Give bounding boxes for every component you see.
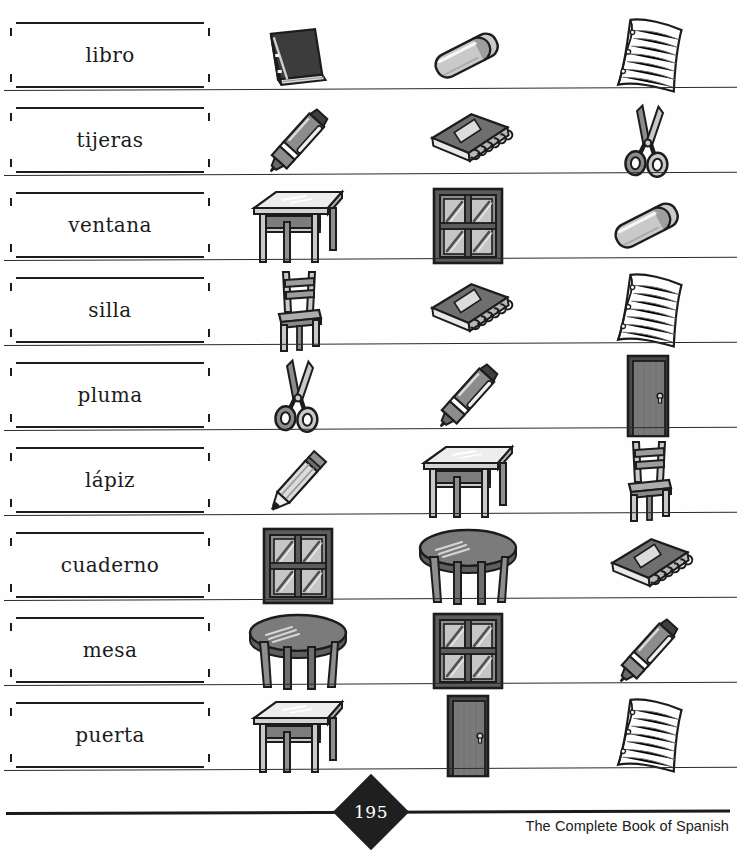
door-icon[interactable]: [398, 696, 538, 776]
worksheet-row: cuaderno: [0, 522, 741, 607]
worksheet-row: pluma: [0, 352, 741, 437]
scissors-icon[interactable]: [578, 101, 718, 181]
word-plaque: [10, 22, 210, 88]
word-plaque: [10, 362, 210, 428]
worksheet-page: libro: [0, 0, 741, 851]
notebook-icon[interactable]: [398, 271, 538, 351]
paper-icon[interactable]: [578, 16, 718, 96]
desk-icon[interactable]: [398, 441, 538, 521]
word-plaque: [10, 277, 210, 343]
word-plaque: [10, 702, 210, 768]
word-plaque: [10, 617, 210, 683]
chair-icon[interactable]: [578, 441, 718, 521]
word-plaque: [10, 532, 210, 598]
book-title: The Complete Book of Spanish: [526, 818, 730, 834]
eraser-icon[interactable]: [578, 186, 718, 266]
worksheet-row: libro: [0, 12, 741, 97]
word-plaque: [10, 107, 210, 173]
worksheet-row: puerta: [0, 692, 741, 777]
desk-icon[interactable]: [228, 186, 368, 266]
worksheet-row: silla: [0, 267, 741, 352]
paper-icon[interactable]: [578, 271, 718, 351]
book-icon[interactable]: [228, 16, 368, 96]
worksheet-row: tijeras: [0, 97, 741, 182]
window-icon[interactable]: [398, 611, 538, 691]
word-plaque: [10, 192, 210, 258]
worksheet-row: lápiz: [0, 437, 741, 522]
pencil-icon[interactable]: [228, 441, 368, 521]
notebook-icon[interactable]: [398, 101, 538, 181]
door-icon[interactable]: [578, 356, 718, 436]
table-icon[interactable]: [228, 611, 368, 691]
scissors-icon[interactable]: [228, 356, 368, 436]
word-plaque: [10, 447, 210, 513]
pen-icon[interactable]: [228, 101, 368, 181]
paper-icon[interactable]: [578, 696, 718, 776]
eraser-icon[interactable]: [398, 16, 538, 96]
page-number: 195: [344, 785, 398, 839]
worksheet-row: ventana: [0, 182, 741, 267]
notebook-icon[interactable]: [578, 526, 718, 606]
window-icon[interactable]: [228, 526, 368, 606]
pen-icon[interactable]: [398, 356, 538, 436]
table-icon[interactable]: [398, 526, 538, 606]
desk-icon[interactable]: [228, 696, 368, 776]
pen-icon[interactable]: [578, 611, 718, 691]
worksheet-row: mesa: [0, 607, 741, 692]
chair-icon[interactable]: [228, 271, 368, 351]
window-icon[interactable]: [398, 186, 538, 266]
